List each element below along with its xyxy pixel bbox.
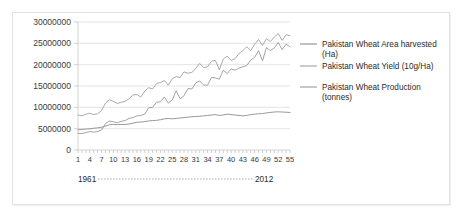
legend-label-2: Pakistan Wheat Yield (10g/Ha) [322, 62, 434, 71]
series-line-3 [78, 42, 290, 133]
x-axis-tick-label: 40 [227, 155, 235, 164]
data-series-group [78, 34, 290, 134]
x-axis-tick-label: 4 [88, 155, 92, 164]
x-axis-tick-label: 10 [109, 155, 117, 164]
year-range-annotation: 19612012 [78, 175, 274, 184]
legend-label-1: Pakistan Wheat Area harvested [322, 40, 437, 49]
y-axis-tick-label: 10000000 [33, 102, 71, 112]
y-axis-labels-group: 0500000010000000150000002000000025000000… [33, 17, 71, 155]
chart-container: 0500000010000000150000002000000025000000… [0, 0, 466, 221]
x-axis-tick-label: 52 [274, 155, 282, 164]
series-line-2 [78, 34, 290, 116]
y-axis-tick-label: 30000000 [33, 17, 71, 27]
x-axis-labels-group: 14710131619222528313437404346495255 [76, 155, 294, 164]
x-axis-tick-label: 1 [76, 155, 80, 164]
x-axis-tick-label: 13 [121, 155, 129, 164]
y-axis-tick-label: 15000000 [33, 81, 71, 91]
legend-label-3: Pakistan Wheat Production [322, 83, 421, 92]
x-axis-tick-label: 34 [203, 155, 211, 164]
gridlines-group [78, 22, 290, 150]
x-axis-group [78, 150, 290, 153]
x-axis-tick-label: 19 [144, 155, 152, 164]
x-axis-tick-label: 55 [286, 155, 294, 164]
y-axis-tickmarks-group [74, 22, 78, 150]
y-axis-tick-label: 5000000 [38, 124, 71, 134]
y-axis-tick-label: 25000000 [33, 38, 71, 48]
y-axis-tick-label: 20000000 [33, 60, 71, 70]
x-axis-tick-label: 46 [250, 155, 258, 164]
x-axis-tick-label: 43 [239, 155, 247, 164]
legend-label-3: (tonnes) [322, 93, 352, 102]
x-axis-tick-label: 37 [215, 155, 223, 164]
range-start-label: 1961 [78, 175, 97, 184]
line-chart: 0500000010000000150000002000000025000000… [0, 0, 466, 221]
x-axis-tick-label: 49 [262, 155, 270, 164]
range-end-label: 2012 [255, 175, 274, 184]
x-axis-tick-label: 28 [180, 155, 188, 164]
legend-label-1: (Ha) [322, 50, 338, 59]
x-axis-tick-label: 25 [168, 155, 176, 164]
chart-legend: Pakistan Wheat Area harvested(Ha)Pakista… [300, 40, 437, 102]
x-axis-tick-label: 7 [99, 155, 103, 164]
y-axis-tick-label: 0 [66, 145, 71, 155]
x-axis-tick-label: 16 [133, 155, 141, 164]
x-axis-tick-label: 22 [156, 155, 164, 164]
x-axis-tick-label: 31 [192, 155, 200, 164]
